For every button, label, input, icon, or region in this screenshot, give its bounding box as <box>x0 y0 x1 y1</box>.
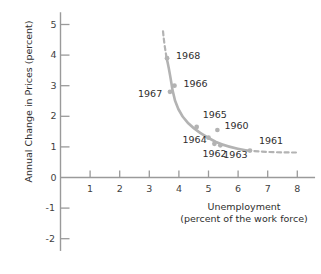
y-tick-label-4: 4 <box>51 50 57 60</box>
x-axis-title-line2: (percent of the work force) <box>168 213 320 224</box>
x-tick-label-7: 7 <box>265 184 271 194</box>
x-tick-label-6: 6 <box>235 184 241 194</box>
point-label-1964: 1964 <box>183 135 207 145</box>
x-tick-label-1: 1 <box>87 184 93 194</box>
point-label-1967: 1967 <box>138 89 162 99</box>
y-tick-label-neg2: -2 <box>46 234 55 244</box>
y-tick-label-3: 3 <box>51 81 57 91</box>
y-tick-label-5: 5 <box>51 20 57 30</box>
y-tick-label-0: 0 <box>51 173 57 183</box>
x-axis-title-line1: Unemployment <box>168 201 320 212</box>
point-label-1965: 1965 <box>203 110 227 120</box>
phillips-curve-chart: 12345678-2-1012345 196819661967196519641… <box>0 0 321 274</box>
data-point-1960[interactable] <box>215 128 220 133</box>
data-point-1964[interactable] <box>206 135 211 140</box>
x-tick-label-3: 3 <box>146 184 152 194</box>
y-tick-label-1: 1 <box>51 142 57 152</box>
point-label-1963: 1963 <box>223 150 247 160</box>
y-tick-label-2: 2 <box>51 111 57 121</box>
point-label-1966: 1966 <box>183 79 207 89</box>
data-point-1968[interactable] <box>165 56 170 61</box>
data-point-1967[interactable] <box>168 89 173 94</box>
point-label-1960: 1960 <box>224 121 248 131</box>
x-tick-label-8: 8 <box>294 184 300 194</box>
y-axis-title: Annual Change in Prices (percent) <box>17 2 36 202</box>
data-point-1962[interactable] <box>212 141 217 146</box>
data-point-1965[interactable] <box>194 125 199 130</box>
curve-dashed-right-extension <box>247 151 296 153</box>
data-point-1961[interactable] <box>248 148 253 153</box>
data-points-group <box>165 56 253 153</box>
x-tick-label-2: 2 <box>117 184 123 194</box>
x-tick-label-4: 4 <box>176 184 182 194</box>
point-label-1961: 1961 <box>259 136 283 146</box>
point-label-1968: 1968 <box>176 51 200 61</box>
x-axis-title: Unemployment (percent of the work force) <box>168 201 320 224</box>
y-tick-label-neg1: -1 <box>46 203 55 213</box>
x-tick-label-5: 5 <box>206 184 212 194</box>
data-point-1966[interactable] <box>172 83 177 88</box>
curve-dashed-upper-extension <box>163 31 167 58</box>
y-axis-title-text: Annual Change in Prices (percent) <box>23 20 34 182</box>
